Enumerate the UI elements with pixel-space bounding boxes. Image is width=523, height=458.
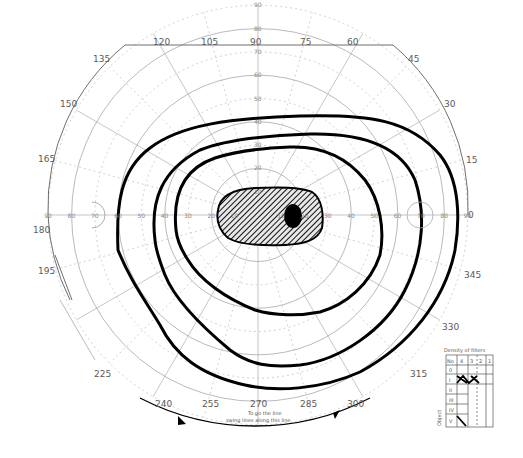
eccentricity-vertical-60: 60 <box>254 71 262 78</box>
label-150: 150 <box>60 99 77 109</box>
row-I: I <box>449 377 450 383</box>
isopter-outer <box>118 116 458 389</box>
label-60: 60 <box>347 37 359 47</box>
row-V: V <box>449 418 453 424</box>
header-3: 3 <box>470 358 473 364</box>
label-45: 45 <box>408 54 419 64</box>
label-75: 75 <box>300 37 311 47</box>
label-135: 135 <box>93 54 110 64</box>
eccentricity-vertical-90: 90 <box>254 1 262 8</box>
eccentricity-10: 10 <box>277 212 285 219</box>
object-label: Object <box>436 410 443 426</box>
row-0: 0 <box>449 367 452 373</box>
note-line-1: To go the line <box>247 410 282 417</box>
row-III: III <box>449 397 453 403</box>
eccentricity-40: 40 <box>347 212 355 219</box>
meridian-255 <box>204 238 252 418</box>
meridian-120 <box>153 33 246 194</box>
meridian-285 <box>264 238 312 418</box>
label-90: 90 <box>250 37 262 47</box>
eccentricity-60: 60 <box>114 212 122 219</box>
meridian-60 <box>270 33 363 194</box>
eccentricity-vertical-50: 50 <box>254 95 262 102</box>
label-345: 345 <box>464 270 481 280</box>
label-225: 225 <box>94 369 111 379</box>
eccentricity-70: 70 <box>417 212 425 219</box>
eccentricity-80: 80 <box>440 212 448 219</box>
label-270: 270 <box>250 399 267 409</box>
visual-field-chart: To go the line swing lines along this li… <box>0 0 523 458</box>
eccentricity-50: 50 <box>138 212 146 219</box>
eccentricity-10: 10 <box>231 212 239 219</box>
label-165: 165 <box>38 154 55 164</box>
header-1: 1 <box>488 358 491 364</box>
label-120: 120 <box>153 37 170 47</box>
eccentricity-vertical-30: 30 <box>254 141 262 148</box>
arrow-right-icon <box>333 410 340 419</box>
eccentricity-vertical-40: 40 <box>254 118 262 125</box>
row-II: II <box>449 387 452 393</box>
label-30: 30 <box>444 99 456 109</box>
eccentricity-vertical-70: 70 <box>254 48 262 55</box>
eccentricity-20: 20 <box>301 212 309 219</box>
eccentricity-vertical-20: 20 <box>254 164 262 171</box>
eccentricity-vertical-10: 10 <box>254 188 262 195</box>
row-IV: IV <box>449 407 454 413</box>
label-330: 330 <box>442 322 459 332</box>
filter-table: Density of filters No 4 3 2 1 0 I II III… <box>436 347 493 427</box>
eccentricity-80: 80 <box>68 212 76 219</box>
eccentricity-20: 20 <box>207 212 215 219</box>
label-195: 195 <box>38 266 55 276</box>
label-285: 285 <box>300 399 317 409</box>
meridian-240 <box>153 235 246 396</box>
label-300: 300 <box>347 399 364 409</box>
eccentricity-40: 40 <box>161 212 169 219</box>
eccentricity-30: 30 <box>184 212 192 219</box>
eccentricity-90: 90 <box>464 212 472 219</box>
note-line-2: swing lines along this line <box>226 417 290 424</box>
label-315: 315 <box>410 369 427 379</box>
label-255: 255 <box>202 399 219 409</box>
filter-table-title: Density of filters <box>444 347 486 354</box>
label-180: 180 <box>33 225 50 235</box>
eccentricity-60: 60 <box>394 212 402 219</box>
arrow-left-icon <box>178 416 186 425</box>
dense-scotoma-core <box>284 204 302 228</box>
header-2: 2 <box>479 358 482 364</box>
header-no: No <box>447 358 454 364</box>
meridian-210 <box>76 227 237 320</box>
label-15: 15 <box>466 155 477 165</box>
label-240: 240 <box>155 399 172 409</box>
isopters <box>118 116 458 389</box>
header-4: 4 <box>460 358 463 364</box>
eccentricity-90: 90 <box>44 212 52 219</box>
eccentricity-30: 30 <box>324 212 332 219</box>
filter-mark-row-V <box>457 416 466 426</box>
label-105: 105 <box>201 37 218 47</box>
eccentricity-vertical-80: 80 <box>254 25 262 32</box>
eccentricity-50: 50 <box>371 212 379 219</box>
eccentricity-70: 70 <box>91 212 99 219</box>
